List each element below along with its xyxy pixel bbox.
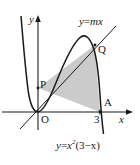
x-axis-arrowhead <box>126 109 133 115</box>
point-label-a: A <box>104 97 112 108</box>
x-axis-label: x <box>119 114 124 125</box>
origin-label: O <box>41 114 49 125</box>
y-axis-label: y <box>29 14 34 25</box>
curve-equation-factor: (3−x) <box>75 139 100 151</box>
point-label-p: P <box>40 79 46 90</box>
line-equation-rhs: mx <box>90 15 103 27</box>
x-tick-label-3: 3 <box>94 114 100 125</box>
point-marker-p <box>37 87 40 90</box>
curve-equation-label: y=x2(3−x) <box>56 139 100 151</box>
math-figure: y x O 3 P Q A y=mx y=x2(3−x) <box>0 0 140 165</box>
point-marker-q <box>94 44 97 47</box>
point-label-q: Q <box>98 44 106 55</box>
line-equation-label: y=mx <box>79 16 103 27</box>
y-axis-arrowhead <box>35 15 41 22</box>
